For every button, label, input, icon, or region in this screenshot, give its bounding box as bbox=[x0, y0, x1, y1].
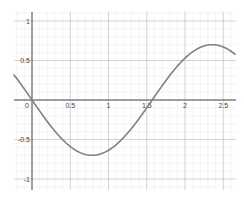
minor-grid bbox=[14, 12, 236, 190]
y-tick-label: -1 bbox=[24, 176, 30, 183]
y-tick-label: 0.5 bbox=[20, 57, 30, 64]
x-tick-label: 1 bbox=[107, 102, 111, 109]
y-tick-label: -0.5 bbox=[18, 136, 30, 143]
x-tick-label: 0 bbox=[25, 102, 29, 109]
x-tick-label: 2 bbox=[183, 102, 187, 109]
x-tick-label: 2.5 bbox=[218, 102, 228, 109]
function-plot: 00.511.522.510.5-0.5-1 bbox=[0, 0, 244, 204]
y-tick-label: 1 bbox=[26, 18, 30, 25]
x-tick-label: 0.5 bbox=[65, 102, 75, 109]
